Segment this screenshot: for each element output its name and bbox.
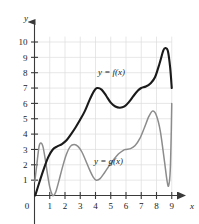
origin-label: 0 <box>25 201 30 211</box>
y-tick-label: 2 <box>23 160 28 170</box>
function-graph-svg: 12345678910 123456789 0 y x y = f(x)y = … <box>0 0 199 224</box>
y-tick-label: 4 <box>23 129 28 139</box>
x-tick-label: 5 <box>109 201 114 211</box>
y-axis-label: y <box>23 13 28 23</box>
x-tick-label: 3 <box>78 201 83 211</box>
y-tick-label: 1 <box>23 175 28 185</box>
x-tick-label: 6 <box>124 201 129 211</box>
x-tick-label: 4 <box>93 201 98 211</box>
curve-label: y = g(x) <box>93 156 123 166</box>
y-tick-label: 9 <box>23 53 28 63</box>
x-tick-labels: 123456789 <box>48 201 175 211</box>
y-tick-label: 5 <box>23 114 28 124</box>
curve-annotations: y = f(x)y = g(x) <box>93 67 125 166</box>
y-tick-label: 10 <box>19 37 29 47</box>
x-tick-label: 1 <box>48 201 53 211</box>
y-tick-labels: 12345678910 <box>19 37 29 185</box>
y-tick-label: 3 <box>23 145 28 155</box>
x-tick-label: 8 <box>154 201 159 211</box>
x-tick-label: 9 <box>170 201 175 211</box>
gridlines <box>35 37 172 196</box>
x-tick-label: 7 <box>139 201 144 211</box>
x-axis-label: x <box>189 201 194 211</box>
x-tick-label: 2 <box>63 201 68 211</box>
y-tick-label: 8 <box>23 68 28 78</box>
graph-figure: 12345678910 123456789 0 y x y = f(x)y = … <box>0 0 199 224</box>
y-tick-label: 6 <box>23 99 28 109</box>
y-tick-label: 7 <box>23 83 28 93</box>
curve-label: y = f(x) <box>97 67 125 77</box>
